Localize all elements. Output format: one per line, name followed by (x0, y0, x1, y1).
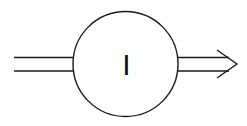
arrowhead-icon (217, 50, 237, 78)
output-connector (177, 50, 237, 78)
process-node: I (73, 12, 178, 117)
input-connector (14, 58, 74, 72)
node-label: I (122, 48, 130, 81)
diagram-canvas: I (0, 0, 247, 126)
